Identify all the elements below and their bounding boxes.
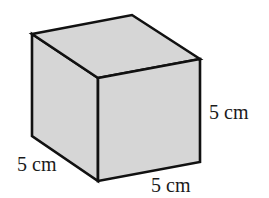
height-label: 5 cm [209,101,249,123]
cube-diagram: 5 cm 5 cm 5 cm [0,0,269,198]
width-label: 5 cm [151,174,191,196]
depth-label: 5 cm [17,153,57,175]
cube-front-face [98,59,200,181]
